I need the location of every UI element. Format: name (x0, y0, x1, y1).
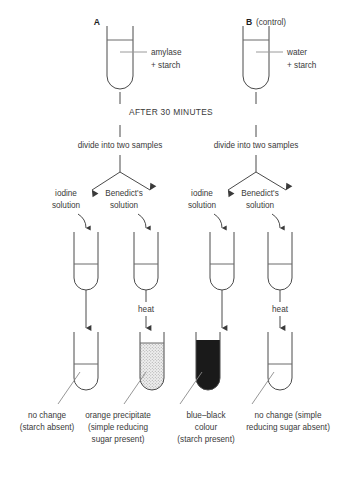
divide-label-b: divide into two samples (214, 141, 299, 150)
tube-b-contents-line2: + starch (287, 61, 317, 70)
reagent-1-line1: iodine (55, 189, 77, 198)
reagent-1-line2: solution (52, 201, 81, 210)
result-3-line1: blue–black (186, 411, 226, 420)
tube-b-label: B (246, 17, 252, 27)
tube-a-label: A (94, 17, 100, 27)
result-3-line3: (starch present) (177, 435, 235, 444)
reagent-2-line1: Benedict's (105, 189, 143, 198)
result-tube-3-blueblack-fill (196, 340, 220, 390)
reagent-4-line2: solution (246, 201, 275, 210)
divide-label-a: divide into two samples (78, 141, 163, 150)
result-4-line1: no change (simple (255, 411, 322, 420)
result-1-line2: (starch absent) (20, 423, 75, 432)
experiment-flow-diagram: A amylase + starch B (control) water + s… (0, 0, 342, 477)
result-2-line1: orange precipitate (85, 411, 151, 420)
result-tube-2-precipitate-fill (140, 343, 164, 390)
reagent-2-line2: solution (110, 201, 139, 210)
tube-a-contents-line1: amylase (151, 48, 182, 57)
canvas-background (0, 0, 342, 477)
result-caption-2: orange precipitate (simple reducing suga… (85, 411, 151, 444)
result-tube-3 (196, 332, 220, 390)
reagent-3-line1: iodine (191, 189, 213, 198)
reagent-3-line2: solution (188, 201, 217, 210)
result-1-line1: no change (28, 411, 67, 420)
stage-header: AFTER 30 MINUTES (129, 107, 213, 117)
tube-b-contents-line1: water (286, 48, 307, 57)
result-2-line3: sugar present) (92, 435, 145, 444)
result-2-line2: (simple reducing (88, 423, 149, 432)
result-3-line2: colour (195, 423, 218, 432)
reagent-4-line1: Benedict's (241, 189, 279, 198)
tube-b-sublabel: (control) (256, 18, 286, 27)
heat-label-4: heat (272, 305, 289, 314)
tube-a-contents-line2: + starch (151, 61, 181, 70)
heat-label-2: heat (138, 305, 155, 314)
result-4-line2: reducing sugar absent) (246, 423, 330, 432)
